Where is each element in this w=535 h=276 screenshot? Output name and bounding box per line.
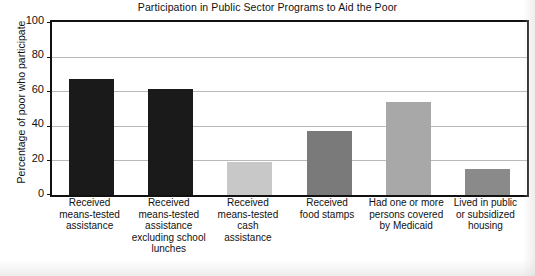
x-category-line: excluding school	[129, 232, 208, 244]
x-category-line: Received	[129, 197, 208, 209]
x-category-line: by Medicaid	[367, 220, 446, 232]
x-category-line: assistance	[50, 220, 129, 232]
y-tick-label-0: 0	[14, 188, 44, 199]
y-tick-label-80: 80	[14, 49, 44, 60]
x-category-line: persons covered	[367, 209, 446, 221]
x-category-line: assistance	[208, 232, 287, 244]
x-category-line: Received	[288, 197, 367, 209]
bar-1	[69, 79, 114, 195]
x-category-line: assistance	[129, 220, 208, 232]
bar-5	[386, 102, 431, 195]
bar-4	[307, 131, 352, 195]
bar-2	[148, 89, 193, 195]
x-category-line: means-tested	[129, 209, 208, 221]
x-category-label-2: Receivedmeans-testedassistanceexcluding …	[129, 197, 208, 255]
bar-3	[227, 162, 272, 195]
plot-area	[50, 20, 529, 197]
y-tick-label-20: 20	[14, 153, 44, 164]
x-category-label-1: Receivedmeans-testedassistance	[50, 197, 129, 232]
x-category-line: means-tested	[50, 209, 129, 221]
y-tick-label-40: 40	[14, 118, 44, 129]
chart-title: Participation in Public Sector Programs …	[0, 1, 535, 13]
x-category-label-6: Lived in publicor subsidizedhousing	[446, 197, 525, 232]
bar-chart: Participation in Public Sector Programs …	[0, 0, 535, 276]
x-category-line: or subsidized	[446, 209, 525, 221]
x-category-label-5: Had one or morepersons coveredby Medicai…	[367, 197, 446, 232]
x-category-line: means-tested	[208, 209, 287, 221]
bar-6	[465, 169, 510, 195]
x-category-line: Received	[208, 197, 287, 209]
y-tick-label-100: 100	[14, 15, 44, 26]
x-category-label-3: Receivedmeans-testedcashassistance	[208, 197, 287, 243]
x-category-label-4: Receivedfood stamps	[288, 197, 367, 220]
x-axis-category-labels: Receivedmeans-testedassistanceReceivedme…	[50, 197, 525, 272]
x-category-line: Received	[50, 197, 129, 209]
x-category-line: cash	[208, 220, 287, 232]
bar-series	[52, 22, 527, 195]
x-category-line: Lived in public	[446, 197, 525, 209]
y-axis-tick-labels: 100806040200	[14, 0, 44, 276]
y-tick-label-60: 60	[14, 84, 44, 95]
x-category-line: housing	[446, 220, 525, 232]
x-category-line: Had one or more	[367, 197, 446, 209]
x-category-line: lunches	[129, 243, 208, 255]
x-category-line: food stamps	[288, 209, 367, 221]
